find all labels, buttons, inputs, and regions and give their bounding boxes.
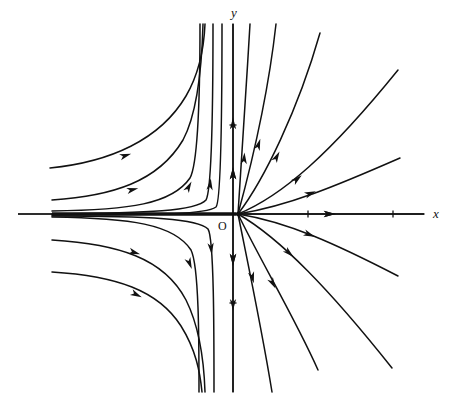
x-axis-label: x: [432, 206, 439, 221]
phase-portrait-canvas: x y O: [0, 0, 455, 415]
critical-point-marker: [236, 212, 240, 216]
figure-background: [0, 0, 455, 415]
phase-portrait-figure: x y O: [0, 0, 455, 415]
y-axis-label: y: [229, 5, 237, 20]
origin-label: O: [218, 219, 227, 233]
